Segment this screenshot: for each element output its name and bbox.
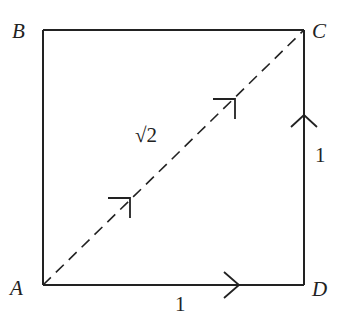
arrow-diagonal-icon — [108, 198, 130, 218]
edge-ac-diagonal — [43, 30, 304, 285]
square-path-diagram: B C A D 1 1 √2 — [0, 0, 356, 334]
vertex-label-a: A — [8, 276, 23, 300]
length-label-diagonal: √2 — [135, 123, 157, 147]
vertex-label-d: D — [311, 277, 327, 301]
length-label-right: 1 — [315, 143, 326, 167]
vertex-label-c: C — [312, 19, 327, 43]
length-label-bottom: 1 — [175, 292, 186, 316]
vertex-label-b: B — [12, 19, 25, 43]
